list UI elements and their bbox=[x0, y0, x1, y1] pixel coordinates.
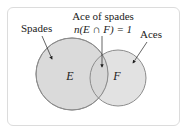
aces-label: Aces bbox=[140, 28, 162, 40]
aces-arrow bbox=[133, 42, 147, 63]
set-f-label: F bbox=[112, 69, 121, 83]
intersection-formula: n(E ∩ F) = 1 bbox=[74, 23, 132, 36]
set-e-label: E bbox=[65, 69, 74, 83]
intersection-title: Ace of spades bbox=[72, 10, 134, 22]
spades-label: Spades bbox=[21, 22, 52, 34]
venn-diagram: E F Spades Ace of spades n(E ∩ F) = 1 Ac… bbox=[0, 0, 196, 135]
